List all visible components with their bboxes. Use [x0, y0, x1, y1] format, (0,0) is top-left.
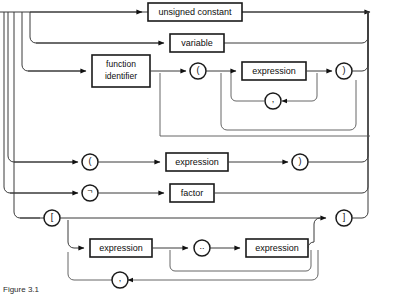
figure-caption: Figure 3.1 — [3, 285, 39, 294]
alternative-set-constructor: [ ] expression .. expression , — [20, 210, 362, 288]
node-function-identifier-label-line1: function — [106, 59, 136, 69]
node-arg-expression-label: expression — [252, 66, 296, 76]
node-set-expression-first-label: expression — [99, 243, 143, 253]
right-merge-spine — [362, 12, 368, 218]
node-paren-open-label: ( — [89, 156, 92, 166]
alternative-unsigned-constant: unsigned constant — [30, 3, 368, 21]
alternative-negation: ¬ factor — [10, 184, 362, 202]
node-rparen-label: ) — [343, 65, 346, 75]
node-paren-expression-label: expression — [175, 157, 219, 167]
node-set-expression-second-label: expression — [255, 243, 299, 253]
node-factor-label: factor — [181, 188, 204, 198]
node-function-identifier-label-line2: identifier — [105, 71, 137, 81]
node-bracket-close-label: ] — [343, 212, 346, 222]
node-arg-separator-label: , — [272, 94, 275, 104]
node-variable-label: variable — [181, 38, 213, 48]
node-not-operator-label: ¬ — [87, 186, 92, 196]
alternative-variable: variable — [36, 34, 362, 52]
node-paren-close-label: ) — [299, 156, 302, 166]
node-set-separator-label: , — [119, 273, 122, 283]
node-range-operator-label: .. — [199, 241, 204, 251]
alternative-function-call: function identifier ( expression ) , — [28, 55, 370, 136]
alternative-parenthesized-expression: ( expression ) — [14, 153, 362, 171]
node-lparen-label: ( — [197, 65, 200, 75]
node-unsigned-constant-label: unsigned constant — [158, 7, 232, 17]
